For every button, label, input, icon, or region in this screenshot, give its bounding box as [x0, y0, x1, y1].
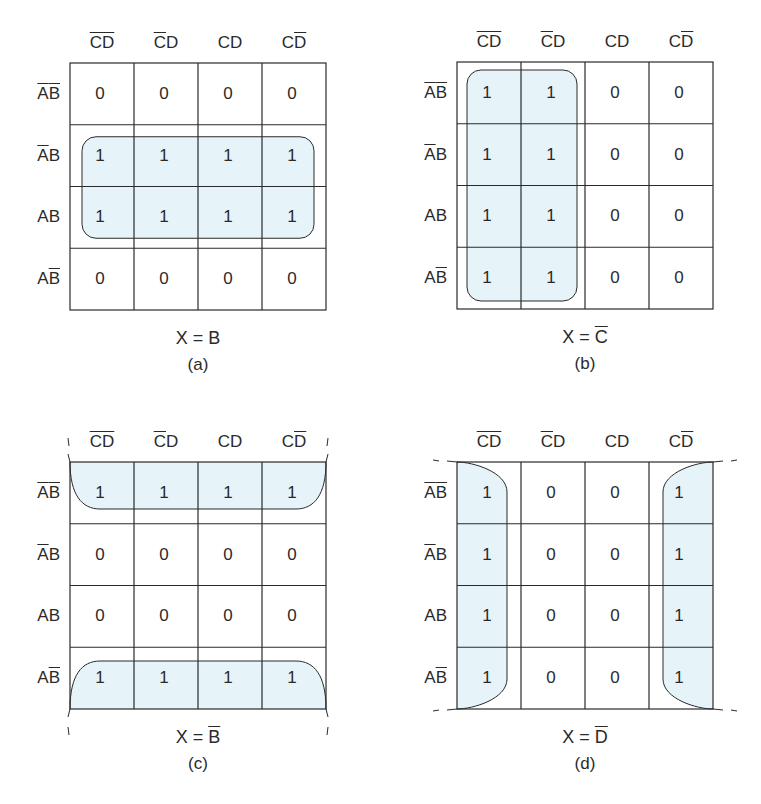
kmap-cell: 0 [583, 483, 647, 503]
row-header: AB [407, 606, 447, 626]
kmap-cell: 1 [455, 668, 519, 688]
kmap-cell: 1 [647, 483, 711, 503]
row-header: AB [407, 545, 447, 565]
kmap-cell: 1 [647, 545, 711, 565]
overlined-variable: B [436, 483, 447, 502]
variable: A [424, 606, 435, 625]
simplified-expression: X = D [457, 727, 713, 747]
variable: D [553, 432, 565, 451]
kmap-cell: 0 [583, 668, 647, 688]
kmap-cell: 1 [647, 606, 711, 626]
overlined-variable: D [489, 432, 501, 451]
kmap-cell: 1 [455, 606, 519, 626]
kmap-cell: 0 [583, 606, 647, 626]
subfigure-caption: (d) [457, 754, 713, 774]
variable: B [436, 606, 447, 625]
overlined-variable: C [541, 432, 553, 451]
kmap-cell: 0 [519, 483, 583, 503]
kmap-cell: 0 [583, 545, 647, 565]
column-header: CD [521, 432, 585, 452]
variable: D [617, 432, 629, 451]
row-header: AB [407, 483, 447, 503]
overlined-variable: C [477, 432, 489, 451]
variable: A [424, 668, 435, 687]
kmap-cell: 0 [519, 545, 583, 565]
kmap-cell: 0 [519, 668, 583, 688]
expression-variable: D [595, 727, 608, 747]
column-header: CD [585, 432, 649, 452]
kmap-cell: 1 [455, 545, 519, 565]
overlined-variable: A [424, 545, 435, 564]
overlined-variable: B [436, 668, 447, 687]
kmap-cell: 0 [519, 606, 583, 626]
kmap-cell: 1 [455, 483, 519, 503]
column-header: CD [649, 432, 713, 452]
kmap-cell: 1 [647, 668, 711, 688]
variable: C [605, 432, 617, 451]
variable: B [436, 545, 447, 564]
variable: C [669, 432, 681, 451]
column-header: CD [457, 432, 521, 452]
overlined-variable: D [681, 432, 693, 451]
row-header: AB [407, 668, 447, 688]
expression-lhs: X = [562, 727, 595, 747]
overlined-variable: A [424, 483, 435, 502]
